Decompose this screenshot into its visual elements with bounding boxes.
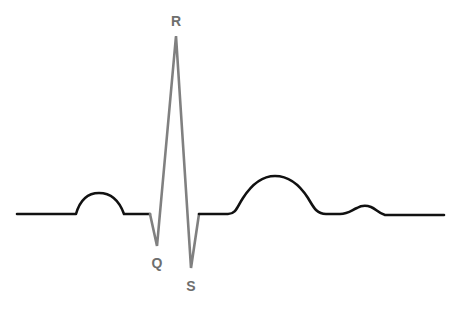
p-wave-segment	[17, 193, 150, 214]
ecg-diagram: R Q S	[0, 0, 463, 312]
t-u-wave-segment	[199, 176, 444, 215]
q-point-label: Q	[152, 255, 163, 271]
qrs-complex	[150, 36, 199, 268]
s-point-label: S	[186, 278, 195, 294]
r-peak-label: R	[171, 13, 181, 29]
